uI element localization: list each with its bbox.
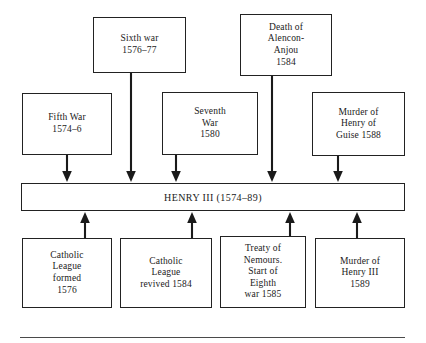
arrowhead-league-revived (187, 212, 197, 223)
box-murder-of-henry-of-guise: Murder of Henry of Guise 1588 (312, 92, 405, 156)
box-treaty-of-nemours-label: Treaty of Nemours. Start of Eighth war 1… (244, 243, 282, 301)
bottom-divider-rule (20, 337, 405, 338)
box-fifth-war: Fifth War 1574–6 (22, 93, 112, 155)
arrowhead-league-formed (80, 212, 90, 223)
box-death-of-alencon-anjou-label: Death of Alencon- Anjou 1584 (268, 22, 305, 68)
box-murder-of-henry-iii-label: Murder of Henry III 1589 (340, 256, 380, 291)
henry-iii-bar-label: HENRY III (1574–89) (164, 192, 262, 203)
box-catholic-league-revived-label: Catholic League revived 1584 (140, 256, 192, 291)
arrowhead-sixth-war (126, 171, 136, 182)
box-seventh-war: Seventh War 1580 (162, 92, 258, 155)
arrowhead-nemours (285, 212, 295, 223)
box-treaty-of-nemours: Treaty of Nemours. Start of Eighth war 1… (220, 236, 306, 308)
box-murder-of-henry-iii: Murder of Henry III 1589 (315, 238, 405, 308)
box-death-of-alencon-anjou: Death of Alencon- Anjou 1584 (240, 14, 332, 76)
arrowhead-alencon (267, 171, 277, 182)
box-catholic-league-formed: Catholic League formed 1576 (22, 238, 112, 308)
henry-iii-bar: HENRY III (1574–89) (21, 183, 405, 211)
arrowhead-fifth-war (62, 171, 72, 182)
diagram-canvas: Sixth war 1576–77 Death of Alencon- Anjo… (0, 0, 426, 343)
box-catholic-league-formed-label: Catholic League formed 1576 (50, 250, 83, 296)
arrowhead-murder-henry-iii (352, 212, 362, 223)
arrowhead-seventh-war (171, 171, 181, 182)
box-fifth-war-label: Fifth War 1574–6 (48, 112, 86, 135)
box-sixth-war-label: Sixth war 1576–77 (120, 33, 158, 56)
box-seventh-war-label: Seventh War 1580 (194, 106, 226, 141)
box-sixth-war: Sixth war 1576–77 (93, 17, 186, 73)
box-murder-of-henry-of-guise-label: Murder of Henry of Guise 1588 (336, 107, 381, 142)
arrowhead-guise (333, 171, 343, 182)
box-catholic-league-revived: Catholic League revived 1584 (120, 238, 212, 308)
